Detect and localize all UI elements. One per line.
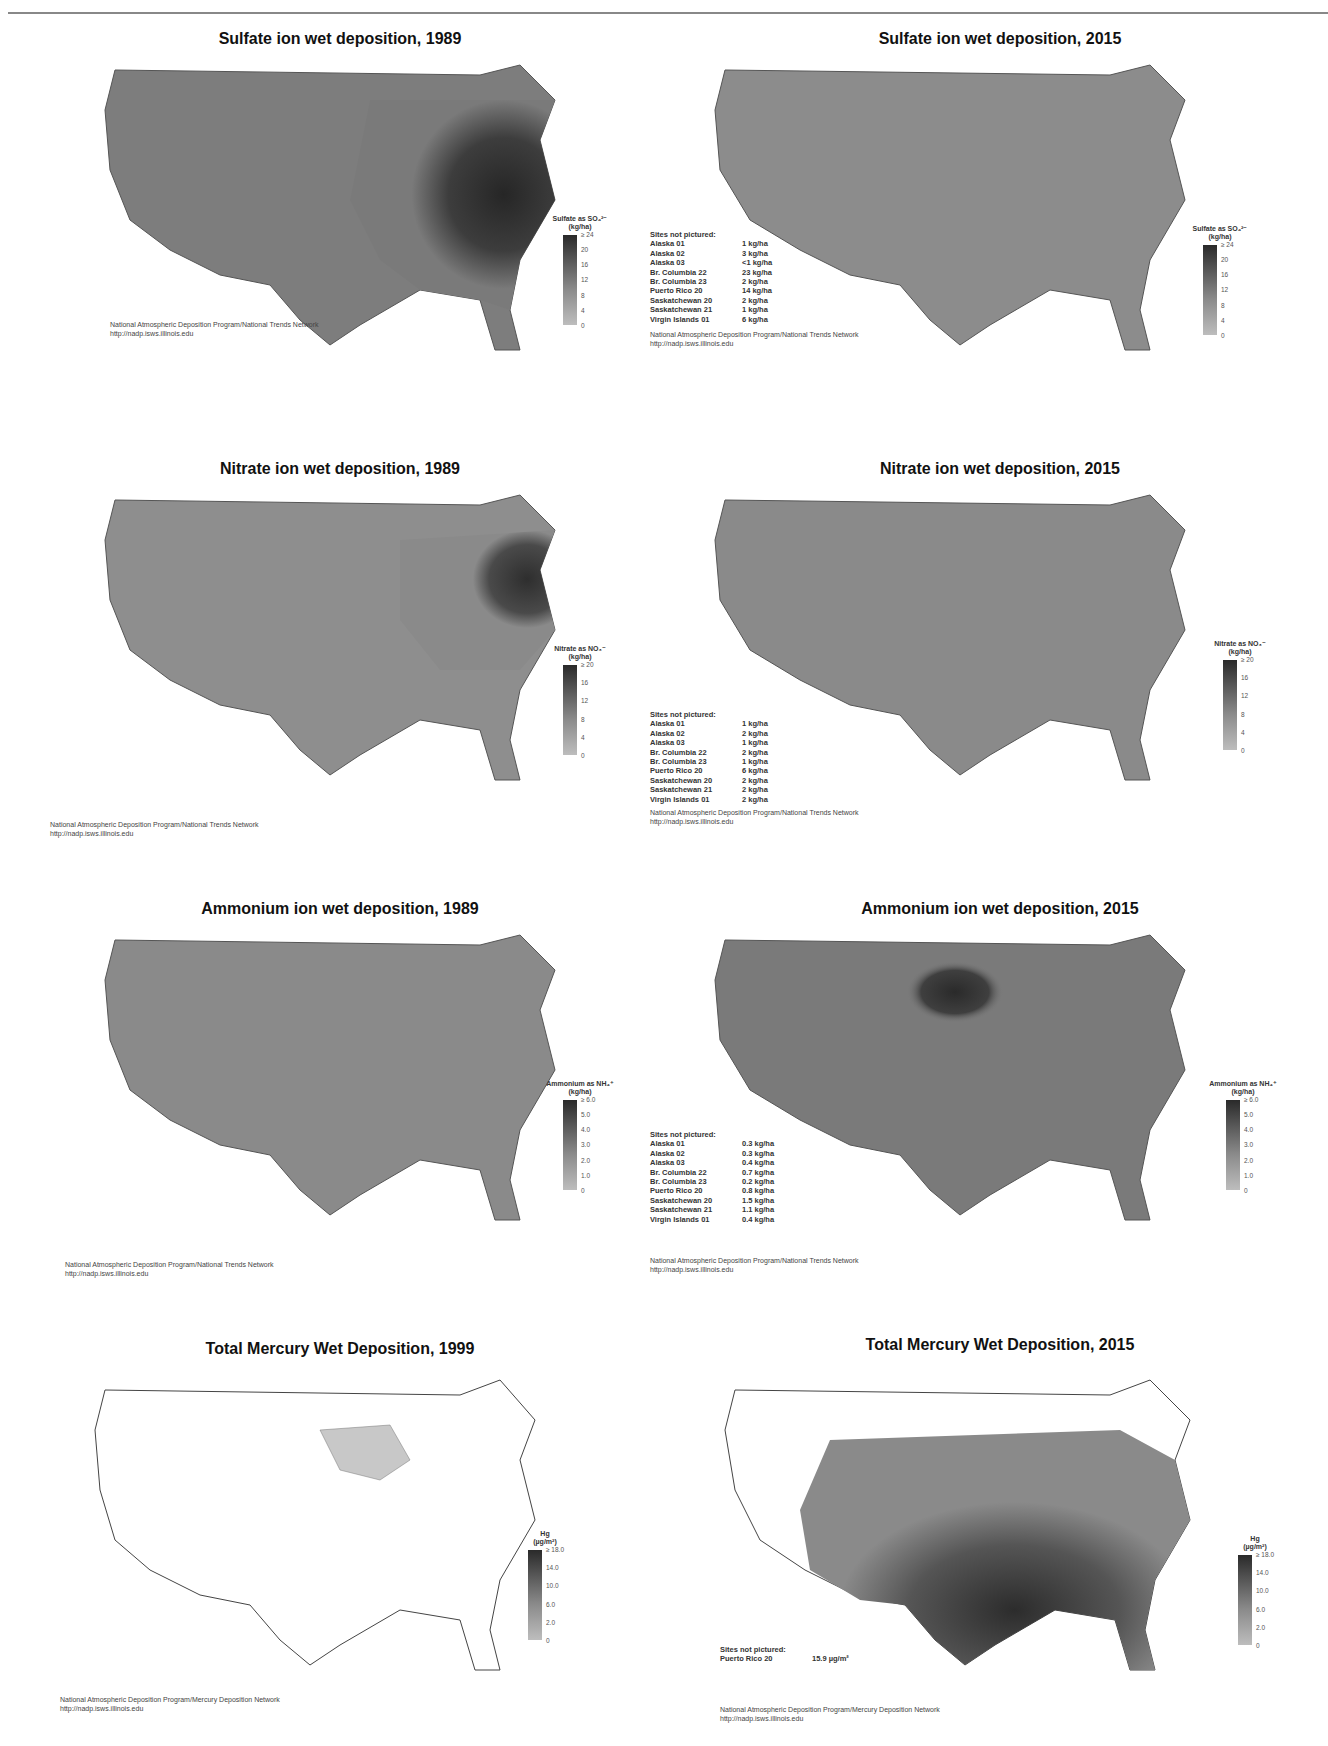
panel-title: Total Mercury Wet Deposition, 1999: [20, 1340, 660, 1358]
legend-color-bar: [1223, 660, 1237, 750]
us-map: [90, 1370, 550, 1690]
panel-mercury-1999: Total Mercury Wet Deposition, 1999 Hg (µ…: [20, 1330, 660, 1730]
us-map: [720, 1370, 1210, 1690]
legend-sulfate-1989: Sulfate as SO₄²⁻ (kg/ha) ≥ 24201612840: [545, 215, 615, 325]
legend-sulfate-2015: Sulfate as SO₄²⁻ (kg/ha) ≥ 24201612840: [1185, 225, 1255, 335]
panel-mercury-2015: Total Mercury Wet Deposition, 2015 Sites…: [680, 1330, 1320, 1740]
page-rule: [8, 12, 1328, 14]
credit: National Atmospheric Deposition Program/…: [650, 330, 859, 348]
legend-color-bar: [563, 665, 577, 755]
legend-color-bar: [563, 1100, 577, 1190]
credit: National Atmospheric Deposition Program/…: [60, 1695, 280, 1713]
panel-title: Total Mercury Wet Deposition, 2015: [680, 1336, 1320, 1354]
us-map: [100, 490, 570, 790]
legend-color-bar: [1238, 1555, 1252, 1645]
panel-sulfate-2015: Sulfate ion wet deposition, 2015 Sites n…: [680, 20, 1320, 360]
legend-mercury-2015: Hg (µg/m²) ≥ 18.014.010.06.02.00: [1220, 1535, 1290, 1645]
us-map: [100, 60, 570, 360]
credit: National Atmospheric Deposition Program/…: [65, 1260, 274, 1278]
sites-not-pictured: Sites not pictured: Puerto Rico 2015.9 µ…: [720, 1645, 849, 1664]
legend-nitrate-2015: Nitrate as NO₃⁻ (kg/ha) ≥ 201612840: [1205, 640, 1275, 750]
legend-color-bar: [1203, 245, 1217, 335]
us-map: [710, 930, 1200, 1230]
legend-nitrate-1989: Nitrate as NO₃⁻ (kg/ha) ≥ 201612840: [545, 645, 615, 755]
legend-ammonium-2015: Ammonium as NH₄⁺ (kg/ha) ≥ 6.05.04.03.02…: [1208, 1080, 1278, 1190]
sites-not-pictured: Sites not pictured: Alaska 011 kg/ha Ala…: [650, 710, 768, 804]
panel-title: Ammonium ion wet deposition, 1989: [20, 900, 660, 918]
credit: National Atmospheric Deposition Program/…: [110, 320, 319, 338]
panel-ammonium-2015: Ammonium ion wet deposition, 2015 Sites …: [680, 890, 1320, 1300]
panel-nitrate-2015: Nitrate ion wet deposition, 2015 Sites n…: [680, 450, 1320, 850]
legend-color-bar: [1226, 1100, 1240, 1190]
legend-color-bar: [563, 235, 577, 325]
panel-title: Nitrate ion wet deposition, 1989: [20, 460, 660, 478]
credit: National Atmospheric Deposition Program/…: [720, 1705, 940, 1723]
credit: National Atmospheric Deposition Program/…: [50, 820, 259, 838]
us-map: [100, 930, 570, 1230]
sites-not-pictured: Sites not pictured: Alaska 011 kg/ha Ala…: [650, 230, 772, 324]
credit: National Atmospheric Deposition Program/…: [650, 1256, 859, 1274]
legend-color-bar: [528, 1550, 542, 1640]
panel-title: Nitrate ion wet deposition, 2015: [680, 460, 1320, 478]
panel-sulfate-1989: Sulfate ion wet deposition, 1989 Sulfate…: [20, 20, 660, 350]
panel-title: Sulfate ion wet deposition, 1989: [20, 30, 660, 48]
panel-title: Sulfate ion wet deposition, 2015: [680, 30, 1320, 48]
legend-mercury-1999: Hg (µg/m²) ≥ 18.014.010.06.02.00: [510, 1530, 580, 1640]
credit: National Atmospheric Deposition Program/…: [650, 808, 859, 826]
us-map: [710, 60, 1200, 360]
legend-ammonium-1989: Ammonium as NH₄⁺ (kg/ha) ≥ 6.05.04.03.02…: [545, 1080, 615, 1190]
sites-not-pictured: Sites not pictured: Alaska 010.3 kg/ha A…: [650, 1130, 774, 1224]
panel-title: Ammonium ion wet deposition, 2015: [680, 900, 1320, 918]
panel-nitrate-1989: Nitrate ion wet deposition, 1989 Nitrate…: [20, 450, 660, 850]
us-map: [710, 490, 1200, 790]
panel-ammonium-1989: Ammonium ion wet deposition, 1989 Ammoni…: [20, 890, 660, 1290]
